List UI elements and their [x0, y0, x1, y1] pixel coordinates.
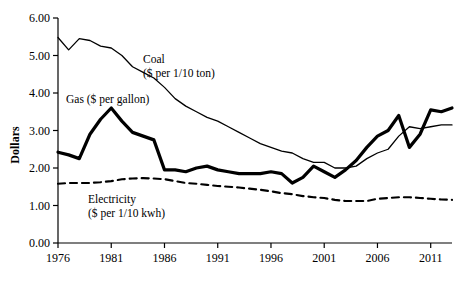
- x-tick-label: 1976: [46, 251, 70, 265]
- y-tick-label: 0.00: [29, 236, 50, 250]
- energy-price-chart: 0.001.002.003.004.005.006.00 19761981198…: [0, 0, 468, 286]
- y-tick-label: 6.00: [29, 11, 50, 25]
- y-tick-label: 1.00: [29, 199, 50, 213]
- series-label-gas: Gas ($ per gallon): [66, 93, 150, 106]
- y-tick-label: 3.00: [29, 124, 50, 138]
- y-axis-label: Dollars: [8, 126, 22, 164]
- x-tick-label: 1981: [99, 251, 123, 265]
- series-label-electricity: Electricity: [88, 193, 136, 206]
- x-tick-label: 2001: [312, 251, 336, 265]
- x-tick-label: 2011: [419, 251, 443, 265]
- x-tick-label: 1991: [206, 251, 230, 265]
- x-tick-label: 1996: [259, 251, 283, 265]
- x-tick-label: 2006: [365, 251, 389, 265]
- x-tick-label: 1986: [152, 251, 176, 265]
- series-sublabel-electricity: ($ per 1/10 kwh): [88, 207, 165, 220]
- series-label-coal: Coal: [143, 53, 165, 65]
- y-tick-label: 2.00: [29, 161, 50, 175]
- series-sublabel-coal: ($ per 1/10 ton): [143, 67, 215, 80]
- y-tick-label: 5.00: [29, 49, 50, 63]
- chart-canvas: 0.001.002.003.004.005.006.00 19761981198…: [0, 0, 468, 286]
- y-tick-label: 4.00: [29, 86, 50, 100]
